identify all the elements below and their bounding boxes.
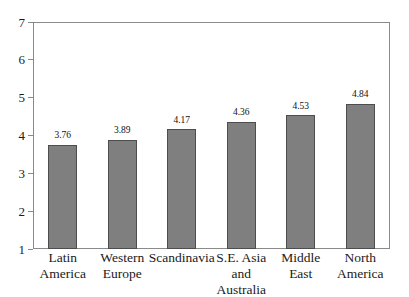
bar-rect[interactable] [286,115,315,249]
bar-value-label: 4.36 [233,108,250,118]
x-axis-label-3: Scandinavia [148,250,216,266]
bar-value-label: 4.53 [292,102,309,112]
x-axis-label-2: WesternEurope [89,250,157,282]
x-axis-label-line: North [327,250,395,266]
x-axis-label-line: and Australia [208,266,276,297]
x-axis-label-line: Latin [29,250,97,266]
bar-value-label: 4.17 [173,116,190,126]
bar-4[interactable]: 4.36 [227,22,256,249]
x-axis-label-5: MiddleEast [267,250,335,282]
bar-value-label: 3.76 [54,131,71,141]
bar-chart: 7654321 3.763.894.174.364.534.84 LatinAm… [0,0,409,297]
x-axis-label-1: LatinAmerica [29,250,97,282]
bars-layer: 3.763.894.174.364.534.84 [33,22,390,249]
x-axis-label-line: Middle [267,250,335,266]
bar-2[interactable]: 3.89 [108,22,137,249]
bar-value-label: 4.84 [352,90,369,100]
y-axis-tick-label: 4 [19,129,29,142]
bar-6[interactable]: 4.84 [346,22,375,249]
x-axis-label-line: Europe [89,266,157,282]
x-axis-label-4: S.E. Asiaand Australia [208,250,276,297]
bar-rect[interactable] [346,104,375,249]
x-axis-label-line: America [29,266,97,282]
x-axis-label-line: S.E. Asia [208,250,276,266]
bar-value-label: 3.89 [114,126,131,136]
bar-rect[interactable] [48,145,77,249]
x-axis-label-line: Scandinavia [148,250,216,266]
bar-rect[interactable] [108,140,137,249]
y-axis-tick-label: 6 [19,53,29,66]
bar-1[interactable]: 3.76 [48,22,77,249]
x-axis-label-line: East [267,266,335,282]
y-axis-tick-label: 1 [19,243,29,256]
y-axis-tick-label: 5 [19,91,29,104]
x-axis-category-labels: LatinAmericaWesternEuropeScandinaviaS.E.… [33,250,390,297]
bar-rect[interactable] [227,122,256,249]
bar-rect[interactable] [167,129,196,249]
x-axis-label-6: NorthAmerica [327,250,395,282]
y-axis-tick-label: 7 [19,16,29,29]
y-axis-tick-label: 2 [19,205,29,218]
x-axis-label-line: America [327,266,395,282]
y-axis-tick-label: 3 [19,167,29,180]
bar-3[interactable]: 4.17 [167,22,196,249]
bar-5[interactable]: 4.53 [286,22,315,249]
x-axis-label-line: Western [89,250,157,266]
